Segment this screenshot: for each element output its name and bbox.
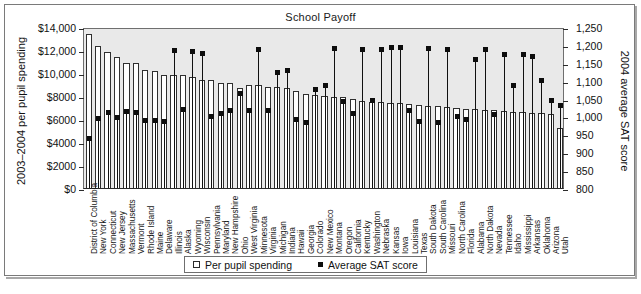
sat-marker-dot [181, 107, 186, 112]
x-axis-tick-label: Colorado [317, 221, 325, 254]
sat-marker-stem [315, 88, 316, 188]
sat-marker-stem [98, 116, 99, 188]
x-axis-tick-label: Tennessee [506, 214, 514, 254]
sat-marker-dot [530, 54, 535, 59]
sat-marker-stem [428, 46, 429, 188]
x-axis-tick-label: Arkansas [534, 220, 542, 254]
sat-marker-stem [192, 49, 193, 188]
sat-marker-stem [155, 118, 156, 188]
legend-item: Per pupil spending [193, 259, 292, 271]
sat-marker-stem [419, 119, 420, 188]
sat-marker-stem [362, 48, 363, 188]
x-axis-tick-label: New Jersey [119, 211, 127, 254]
x-axis-tick-label: Massachusetts [129, 199, 137, 254]
x-axis-tick-label: Wisconsin [204, 217, 212, 254]
x-axis-tick-label: Oregon [346, 227, 354, 254]
sat-marker-dot [323, 83, 328, 88]
y-axis-right-tickmark [563, 136, 568, 137]
x-axis-tick-label: Montana [336, 222, 344, 254]
sat-marker-stem [183, 108, 184, 189]
sat-marker-dot [521, 52, 526, 57]
sat-marker-stem [108, 110, 109, 188]
sat-marker-dot [445, 47, 450, 52]
sat-marker-stem [277, 71, 278, 188]
x-axis-tick-label: New York [100, 219, 108, 254]
plot-series-layer [84, 29, 563, 188]
sat-marker-dot [285, 68, 290, 73]
sat-marker-stem [447, 47, 448, 188]
legend-item-label: Average SAT score [328, 259, 418, 271]
y-axis-left-tickmark [79, 98, 84, 99]
sat-marker-stem [353, 112, 354, 188]
sat-marker-stem [372, 98, 373, 188]
sat-marker-stem [89, 136, 90, 188]
sat-marker-dot [247, 108, 252, 113]
sat-marker-dot [266, 108, 271, 113]
y-axis-right-ticks: 8008509009501,0001,0501,1001,1501,2001,2… [571, 28, 641, 189]
sat-marker-dot [332, 46, 337, 51]
x-axis-tick-label: Florida [468, 229, 476, 254]
x-axis-tick-label: Washington [374, 211, 382, 254]
y-axis-left-tickmark [79, 29, 84, 30]
legend-item-label: Per pupil spending [205, 259, 292, 271]
sat-marker-dot [134, 110, 139, 115]
sat-marker-dot [351, 111, 356, 116]
sat-marker-dot [370, 98, 375, 103]
sat-marker-dot [483, 47, 488, 52]
sat-marker-dot [304, 120, 309, 125]
figure-root: School Payoff 2003–2004 per pupil spendi… [0, 0, 641, 294]
sat-marker-stem [249, 109, 250, 188]
y-axis-right-tick-label: 800 [576, 184, 594, 195]
y-axis-right-tickmark [563, 47, 568, 48]
sat-marker-dot [389, 45, 394, 50]
sat-marker-stem [391, 46, 392, 188]
x-axis-tick-label: Louisiana [412, 219, 420, 254]
x-axis-tick-label: Oklahoma [544, 217, 552, 254]
sat-marker-stem [438, 120, 439, 188]
x-axis-tick-label: South Dakota [430, 204, 438, 254]
x-axis-tick-label: Pennsylvania [214, 205, 222, 254]
sat-marker-stem [343, 100, 344, 188]
sat-marker-dot [200, 51, 205, 56]
x-axis-tick-label: Indiana [289, 227, 297, 254]
sat-marker-dot [436, 120, 441, 125]
sat-marker-stem [400, 46, 401, 188]
y-axis-right-tickmark [563, 101, 568, 102]
legend-filled-square-icon [318, 262, 323, 267]
sat-marker-dot [238, 91, 243, 96]
y-axis-right-tick-label: 1,000 [576, 112, 602, 123]
y-axis-left-tickmark [79, 121, 84, 122]
y-axis-left-tick-label: $10,000 [38, 69, 76, 80]
sat-marker-dot [153, 118, 158, 123]
y-axis-left-tick-label: $8000 [47, 92, 76, 103]
legend-open-square-icon [193, 261, 200, 268]
sat-marker-dot [172, 48, 177, 53]
x-axis-tick-label: Minnesota [261, 216, 269, 254]
y-axis-left-tick-label: $2000 [47, 161, 76, 172]
sat-marker-stem [145, 119, 146, 188]
y-axis-left-tickmark [79, 167, 84, 168]
sat-marker-dot [219, 111, 224, 116]
sat-marker-dot [275, 70, 280, 75]
sat-marker-dot [209, 114, 214, 119]
y-axis-left-tick-label: $12,000 [38, 46, 76, 57]
y-axis-right-tick-label: 950 [576, 130, 594, 141]
legend: Per pupil spendingAverage SAT score [184, 256, 427, 273]
plot-area [83, 28, 564, 189]
sat-marker-stem [532, 55, 533, 188]
y-axis-right-tick-label: 1,050 [576, 95, 602, 106]
sat-marker-stem [466, 117, 467, 188]
y-axis-left-tickmark [79, 144, 84, 145]
sat-marker-dot [313, 87, 318, 92]
x-axis-tick-label: New Hampshire [232, 196, 240, 254]
sat-marker-stem [258, 47, 259, 188]
sat-marker-stem [211, 114, 212, 188]
y-axis-left-tick-label: $0 [64, 184, 76, 195]
sat-marker-dot [256, 47, 261, 52]
chart-frame: School Payoff 2003–2004 per pupil spendi… [4, 4, 635, 276]
sat-marker-stem [504, 52, 505, 188]
sat-marker-stem [164, 119, 165, 188]
x-axis-tick-label: Alaska [185, 229, 193, 254]
sat-marker-stem [523, 52, 524, 188]
x-axis-tick-label: Ohio [242, 237, 250, 254]
